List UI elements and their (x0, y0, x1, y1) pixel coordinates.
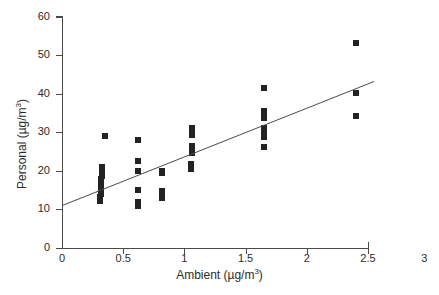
data-point-marker (353, 113, 359, 119)
data-point-marker (135, 158, 141, 164)
data-point-marker (353, 40, 359, 46)
y-tick (56, 55, 62, 56)
x-axis-extra-label: 3 (421, 253, 427, 264)
y-tick-label: 60 (20, 11, 50, 22)
x-axis-title-text: Ambient (µg/m (176, 268, 254, 282)
y-axis-line (62, 16, 63, 248)
y-axis-title-text: Personal (µg/m (15, 107, 29, 189)
y-tick-label: 50 (20, 49, 50, 60)
x-tick-label: 0.5 (103, 253, 143, 264)
y-axis-title-exponent: 3 (14, 103, 23, 107)
data-point-marker (261, 108, 267, 114)
plot-area: 0102030405060 00.511.522.5 Ambient (µg/m… (0, 0, 439, 295)
data-point-marker (353, 90, 359, 96)
y-axis-title-tail: ) (15, 99, 29, 103)
data-point-marker (135, 137, 141, 143)
data-point-marker (261, 125, 267, 131)
y-axis-title: Personal (µg/m3) (15, 69, 29, 219)
data-point-marker (135, 187, 141, 193)
data-point-marker (159, 168, 165, 174)
data-point-marker (261, 85, 267, 91)
x-tick-label: 2 (287, 253, 327, 264)
y-tick (56, 17, 62, 18)
data-point-marker (188, 161, 194, 167)
y-tick (56, 209, 62, 210)
x-axis-line (62, 248, 369, 249)
data-point-marker (135, 168, 141, 174)
x-tick-label: 0 (42, 253, 82, 264)
data-point-marker (135, 199, 141, 205)
data-point-marker (189, 125, 195, 131)
data-point-marker (99, 164, 105, 170)
scatter-plot-figure: 0102030405060 00.511.522.5 Ambient (µg/m… (0, 0, 439, 295)
data-point-marker (159, 188, 165, 194)
y-tick (56, 94, 62, 95)
data-point-marker (102, 133, 108, 139)
x-tick-label: 1.5 (226, 253, 266, 264)
x-tick-label: 1 (164, 253, 204, 264)
x-tick-label: 2.5 (348, 253, 388, 264)
data-point-marker (261, 144, 267, 150)
y-tick (56, 248, 62, 249)
x-axis-title-tail: ) (259, 268, 263, 282)
x-axis-title: Ambient (µg/m3) (0, 268, 439, 282)
data-point-marker (189, 143, 195, 149)
regression-line (0, 0, 439, 295)
y-tick (56, 171, 62, 172)
y-tick (56, 132, 62, 133)
y-tick-label: 0 (20, 242, 50, 253)
